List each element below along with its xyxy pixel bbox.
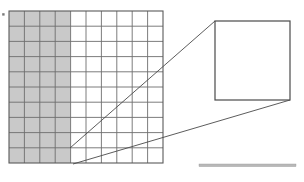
scale-bar (199, 164, 296, 167)
figure-canvas (0, 0, 304, 182)
magnified-detail-inset (215, 21, 290, 100)
inset-outer-border (215, 21, 290, 100)
left-edge-dot (2, 13, 4, 15)
figure-root (0, 0, 304, 182)
